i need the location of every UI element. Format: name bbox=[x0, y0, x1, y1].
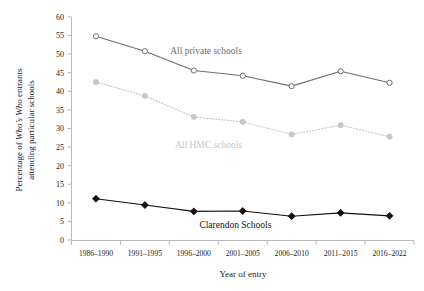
y-tick-label: 25 bbox=[56, 143, 64, 152]
x-tick-label: 1986–1990 bbox=[79, 249, 113, 258]
data-point-marker bbox=[338, 123, 343, 128]
data-point-marker bbox=[93, 34, 98, 39]
y-tick-label: 40 bbox=[56, 87, 64, 96]
y-tick-label: 30 bbox=[56, 124, 64, 133]
series-annotation-label: Clarendon Schools bbox=[199, 220, 271, 230]
x-tick-label: 2006–2010 bbox=[275, 249, 309, 258]
x-tick-label: 2011–2015 bbox=[324, 249, 358, 258]
data-point-marker bbox=[289, 132, 294, 137]
y-axis-title-line-1: Percentage of Who’s Who entrants bbox=[14, 68, 24, 191]
y-tick-label: 15 bbox=[56, 180, 64, 189]
data-point-marker bbox=[387, 134, 392, 139]
x-tick-label: 2016–2022 bbox=[372, 249, 406, 258]
data-point-marker bbox=[191, 68, 196, 73]
y-tick-label: 55 bbox=[56, 31, 64, 40]
x-tick-label: 1991–1995 bbox=[128, 249, 162, 258]
data-point-marker bbox=[191, 114, 196, 119]
y-tick-label: 10 bbox=[56, 199, 64, 208]
y-tick-label: 50 bbox=[56, 50, 64, 59]
data-point-marker bbox=[240, 73, 245, 78]
series-annotation-label: All HMC schools bbox=[175, 140, 242, 150]
y-tick-label: 35 bbox=[56, 106, 64, 115]
line-chart: 051015202530354045505560 1986–19901991–1… bbox=[0, 0, 424, 291]
x-axis-title: Year of entry bbox=[219, 269, 267, 279]
data-point-marker bbox=[93, 79, 98, 84]
y-axis-title-segment: entrants bbox=[14, 68, 24, 99]
x-tick-label: 1996–2000 bbox=[177, 249, 211, 258]
y-axis-title-line-2: attending particular schools bbox=[26, 80, 36, 180]
y-axis-title-segment: Percentage of bbox=[14, 140, 24, 191]
data-point-marker bbox=[387, 80, 392, 85]
y-tick-label: 0 bbox=[60, 236, 64, 245]
x-tick-label: 2001–2005 bbox=[226, 249, 260, 258]
chart-container: 051015202530354045505560 1986–19901991–1… bbox=[0, 0, 424, 291]
data-point-marker bbox=[289, 84, 294, 89]
y-tick-label: 20 bbox=[56, 162, 64, 171]
y-tick-label: 5 bbox=[60, 217, 64, 226]
data-point-marker bbox=[338, 69, 343, 74]
y-tick-label: 45 bbox=[56, 69, 64, 78]
data-point-marker bbox=[142, 49, 147, 54]
data-point-marker bbox=[240, 119, 245, 124]
y-tick-label: 60 bbox=[56, 13, 64, 22]
y-axis-title-segment: Who’s Who bbox=[14, 99, 24, 140]
data-point-marker bbox=[142, 93, 147, 98]
series-annotation-label: All private schools bbox=[170, 46, 242, 56]
